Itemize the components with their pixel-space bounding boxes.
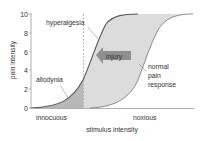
- innocuous-label: innocuous: [36, 114, 68, 121]
- hyperalgesia-label: hyperalgesia: [46, 19, 85, 27]
- x-axis-label: stimulus intensity: [86, 126, 138, 134]
- allodynia-label: allodynia: [36, 76, 63, 84]
- y-tick-0: 0: [24, 105, 28, 112]
- normal-label-1: normal: [148, 63, 169, 70]
- y-tick-8: 8: [24, 30, 28, 37]
- noxious-label: noxious: [133, 114, 157, 121]
- shift-region: [31, 14, 193, 108]
- y-tick-10: 10: [20, 11, 28, 18]
- normal-label-2: pain: [148, 72, 161, 80]
- injury-label: injury: [106, 53, 123, 61]
- normal-label-3: response: [148, 81, 176, 89]
- pain-response-chart: 10 8 6 4 2 0 pain intensity injury hyper…: [0, 0, 205, 141]
- y-axis-label: pain intensity: [9, 40, 17, 79]
- y-tick-2: 2: [24, 86, 28, 93]
- y-tick-6: 6: [24, 49, 28, 56]
- y-tick-4: 4: [24, 67, 28, 74]
